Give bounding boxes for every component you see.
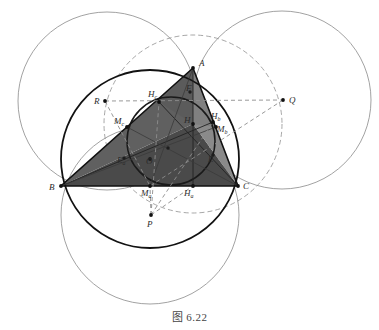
point-C bbox=[236, 184, 240, 188]
figure-container: A B C H O P Q R E F Ha Hb Hc Ma Mb Mc Ea… bbox=[0, 0, 379, 330]
label-Hb: Hb bbox=[210, 111, 221, 122]
triangle-shading bbox=[61, 68, 238, 186]
point-inner-extra bbox=[166, 146, 169, 149]
label-Mb: Mb bbox=[216, 124, 228, 135]
label-P: P bbox=[146, 219, 153, 229]
point-Q bbox=[281, 98, 285, 102]
label-Hc: Hc bbox=[147, 89, 158, 100]
label-A: A bbox=[198, 58, 205, 68]
label-F: F bbox=[185, 83, 192, 93]
dash-P-Ma bbox=[150, 186, 151, 215]
point-Ha bbox=[191, 184, 195, 188]
label-Ha: Ha bbox=[183, 188, 194, 199]
point-Mc bbox=[125, 125, 129, 129]
label-E: E bbox=[207, 154, 214, 164]
point-Hc bbox=[157, 100, 161, 104]
label-O: O bbox=[146, 156, 153, 166]
label-Ma: Ma bbox=[140, 188, 152, 199]
point-H bbox=[191, 122, 195, 126]
point-B bbox=[59, 184, 63, 188]
geometry-diagram: A B C H O P Q R E F Ha Hb Hc Ma Mb Mc Ea bbox=[0, 0, 379, 330]
label-R: R bbox=[93, 96, 100, 106]
label-Mc: Mc bbox=[113, 116, 125, 127]
label-H: H bbox=[183, 115, 191, 125]
point-R bbox=[103, 99, 107, 103]
point-P bbox=[149, 213, 153, 217]
figure-caption: 图 6.22 bbox=[0, 308, 379, 324]
label-B: B bbox=[49, 182, 55, 192]
label-C: C bbox=[243, 181, 250, 191]
point-Ma bbox=[148, 184, 152, 188]
label-Q: Q bbox=[289, 95, 296, 105]
point-A bbox=[191, 66, 195, 70]
